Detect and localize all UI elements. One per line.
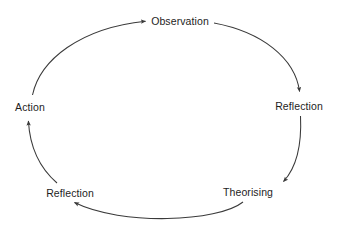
edge-reflection-to-action [28,121,57,183]
edge-action-to-observation [33,21,146,95]
node-label-observation: Observation [151,15,209,27]
node-label-reflection-right: Reflection [275,100,323,112]
node-label-action: Action [15,101,45,113]
edge-observation-to-reflection [214,23,300,92]
edge-theorising-to-reflection [75,202,244,219]
node-label-reflection-bottom: Reflection [46,187,94,199]
edge-reflection-to-theorising [284,116,301,182]
node-label-theorising: Theorising [223,186,273,198]
cycle-arrows-svg [0,0,337,247]
cycle-diagram: Observation Reflection Theorising Reflec… [0,0,337,247]
